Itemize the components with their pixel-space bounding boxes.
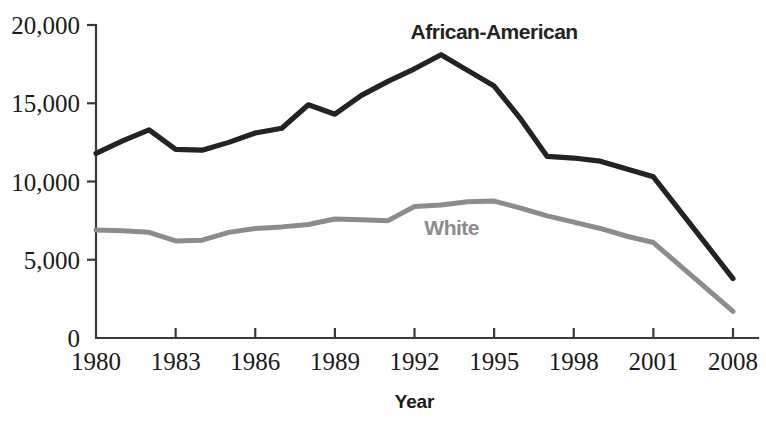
series-label-white: White (424, 216, 479, 239)
x-tick-label: 2001 (628, 348, 678, 375)
line-chart: 05,00010,00015,00020,0001980198319861989… (0, 0, 766, 422)
y-tick-label: 20,000 (11, 12, 80, 39)
data-line-african-american (96, 55, 733, 279)
x-tick-label: 2008 (708, 348, 758, 375)
y-tick-label: 10,000 (11, 169, 80, 196)
data-line-white (96, 201, 733, 311)
series-label-african-american: African-American (411, 20, 578, 43)
y-tick-label: 5,000 (24, 247, 80, 274)
x-axis-title: Year (395, 391, 435, 412)
x-tick-label: 1995 (469, 348, 519, 375)
x-tick-label: 1992 (390, 348, 440, 375)
x-tick-label: 1989 (310, 348, 360, 375)
chart-container: 05,00010,00015,00020,0001980198319861989… (0, 0, 766, 422)
x-tick-label: 1986 (230, 348, 280, 375)
y-tick-label: 15,000 (11, 90, 80, 117)
x-tick-label: 1983 (151, 348, 201, 375)
x-tick-label: 1998 (549, 348, 599, 375)
x-tick-label: 1980 (71, 348, 121, 375)
